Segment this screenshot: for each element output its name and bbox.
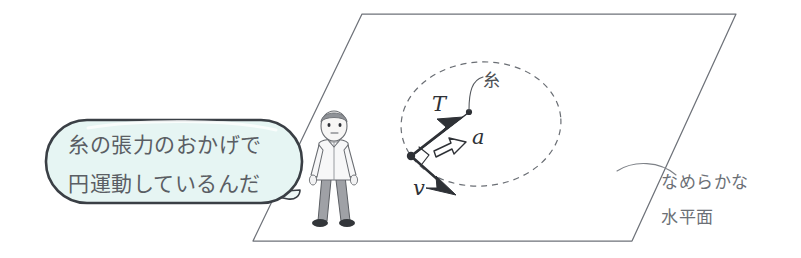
left-hand [309,175,316,185]
plane-label-line-1: なめらかな [661,168,749,193]
right-eye [339,123,342,127]
left-eye [328,123,331,127]
acceleration-vector-label: a [472,125,485,149]
left-shoe [312,219,328,227]
tension-vector-label: T [432,92,446,116]
illustration-canvas: 糸の張力のおかげで 円運動しているんだ 糸 なめらかな 水平面 T a v [0,0,801,258]
right-shoe [339,219,355,227]
velocity-vector-label: v [413,176,425,200]
thread-label: 糸 [483,66,501,91]
speech-bubble-line-2: 円運動しているんだ [68,167,261,197]
speech-bubble-line-1: 糸の張力のおかげで [68,128,262,158]
right-hand [350,175,357,185]
plane-label-line-2: 水平面 [661,203,714,228]
